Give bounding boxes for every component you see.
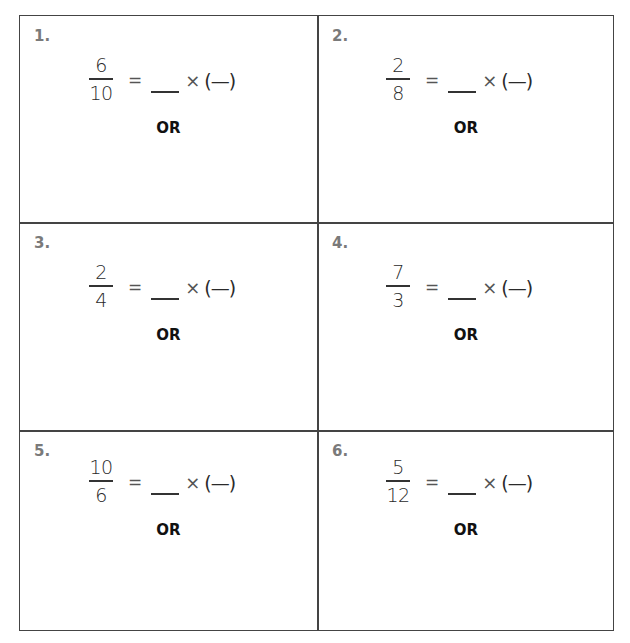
times-sign: × [482,70,497,91]
or-label: OR [318,326,614,344]
fraction-blank[interactable]: (—) [501,472,532,494]
or-label: OR [20,119,317,137]
fraction: 6 10 [84,54,118,103]
answer-blank[interactable] [151,298,179,300]
denominator: 10 [89,82,112,104]
equation: 2 4 = × (—) [84,256,235,316]
fraction-bar [89,480,113,481]
fraction: 10 6 [84,456,118,505]
fraction-blank[interactable]: (—) [204,277,235,299]
equation: 10 6 = × (—) [84,451,235,511]
fraction: 2 8 [381,54,415,103]
fraction-blank[interactable]: (—) [501,70,532,92]
denominator: 4 [95,289,107,311]
equation: 2 8 = × (—) [381,49,532,109]
numerator: 2 [95,261,107,283]
times-sign: × [185,472,200,493]
equals-sign: = [425,277,439,297]
problem-number: 2. [332,27,348,45]
answer-blank[interactable] [151,91,179,93]
fraction: 2 4 [84,261,118,310]
or-label: OR [20,521,317,539]
problem-cell-2: 2. 2 8 = × (—) OR [318,16,614,222]
problem-number: 6. [332,442,348,460]
times-sign: × [185,277,200,298]
equals-sign: = [425,472,439,492]
answer-blank[interactable] [151,493,179,495]
answer-blank[interactable] [448,298,476,300]
equals-sign: = [425,70,439,90]
denominator: 6 [95,484,107,506]
denominator: 3 [392,289,404,311]
problem-cell-3: 3. 2 4 = × (—) OR [20,223,317,430]
problem-number: 1. [34,27,50,45]
answer-blank[interactable] [448,493,476,495]
numerator: 7 [392,261,404,283]
fraction-bar [89,78,113,79]
problem-number: 3. [34,234,50,252]
fraction: 5 12 [381,456,415,505]
equation: 7 3 = × (—) [381,256,532,316]
equals-sign: = [128,70,142,90]
denominator: 8 [392,82,404,104]
fraction-blank[interactable]: (—) [501,277,532,299]
problem-cell-6: 6. 5 12 = × (—) OR [318,431,614,631]
numerator: 10 [89,456,112,478]
times-sign: × [482,472,497,493]
fraction-bar [386,78,410,79]
fraction-bar [386,480,410,481]
fraction-bar [386,285,410,286]
numerator: 5 [392,456,404,478]
times-sign: × [185,70,200,91]
or-label: OR [318,119,614,137]
equation: 5 12 = × (—) [381,451,532,511]
numerator: 6 [95,54,107,76]
equation: 6 10 = × (—) [84,49,235,109]
problem-cell-5: 5. 10 6 = × (—) OR [20,431,317,631]
worksheet-grid: 1. 6 10 = × (—) OR 2. 2 8 = × (—) [19,15,614,631]
fraction-bar [89,285,113,286]
times-sign: × [482,277,497,298]
or-label: OR [318,521,614,539]
answer-blank[interactable] [448,91,476,93]
numerator: 2 [392,54,404,76]
problem-cell-4: 4. 7 3 = × (—) OR [318,223,614,430]
fraction-blank[interactable]: (—) [204,472,235,494]
equals-sign: = [128,472,142,492]
fraction-blank[interactable]: (—) [204,70,235,92]
denominator: 12 [386,484,409,506]
problem-number: 5. [34,442,50,460]
or-label: OR [20,326,317,344]
equals-sign: = [128,277,142,297]
problem-number: 4. [332,234,348,252]
fraction: 7 3 [381,261,415,310]
problem-cell-1: 1. 6 10 = × (—) OR [20,16,317,222]
